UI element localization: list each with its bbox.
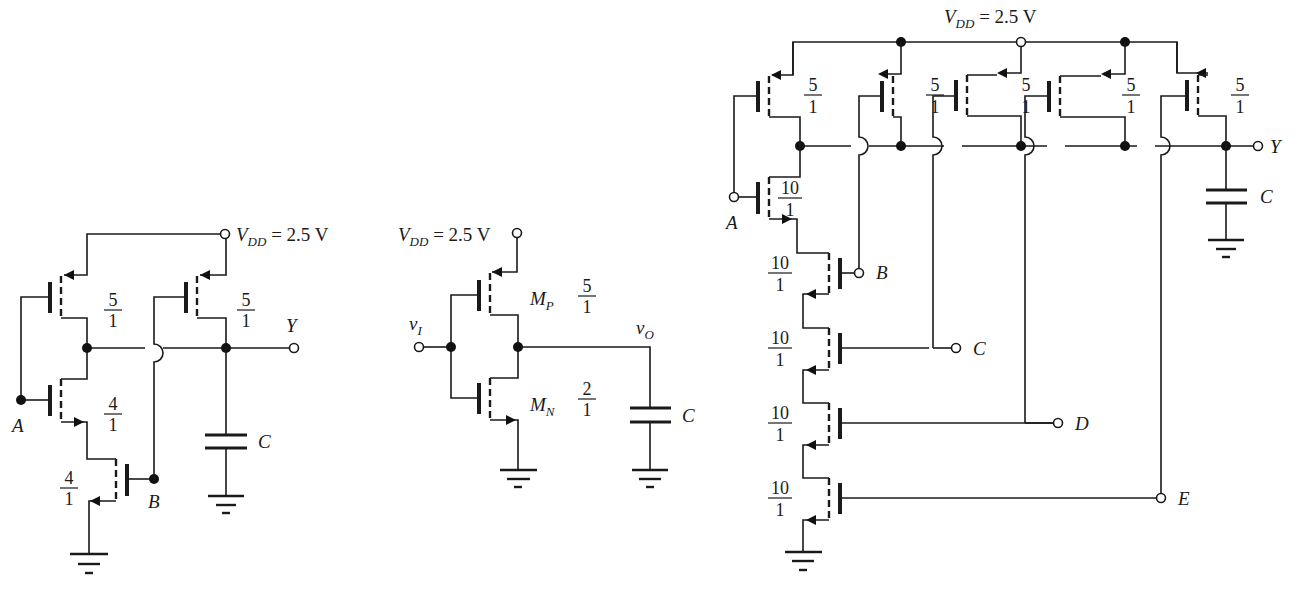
left-vdd-label: VDD = 2.5 V <box>236 224 329 249</box>
right-input-e-label: E <box>1177 488 1190 509</box>
middle-circuit: VDD = 2.5 V MP 5 1 MN 2 1 <box>398 224 695 487</box>
right-input-a-label: A <box>724 212 738 233</box>
right-vdd-rail <box>793 42 1177 75</box>
left-capacitor-icon <box>205 348 247 513</box>
svg-text:4: 4 <box>65 468 74 488</box>
right-pmos-d: 5 1 <box>1025 42 1140 423</box>
left-circuit: VDD = 2.5 V 5 1 4 1 A <box>10 224 329 573</box>
middle-vdd-label: VDD = 2.5 V <box>398 224 491 249</box>
svg-text:10: 10 <box>771 478 789 498</box>
svg-text:5: 5 <box>1236 75 1245 95</box>
svg-text:1: 1 <box>809 97 818 117</box>
svg-text:1: 1 <box>583 297 592 317</box>
svg-text:1: 1 <box>109 415 118 435</box>
right-output-y-terminal <box>1254 142 1263 151</box>
right-pmos-a: 5 1 <box>734 42 822 194</box>
left-vdd-terminal <box>221 230 230 239</box>
right-input-e-terminal <box>1157 494 1166 503</box>
svg-text:5: 5 <box>109 290 118 310</box>
svg-text:1: 1 <box>776 425 785 445</box>
right-input-d-label: D <box>1074 413 1089 434</box>
middle-pmos-mp <box>451 237 518 347</box>
left-output-y-label: Y <box>286 315 299 336</box>
right-input-b-terminal <box>855 269 864 278</box>
right-pmos-e: 5 1 <box>1161 42 1249 496</box>
svg-text:1: 1 <box>583 400 592 420</box>
right-output-y-label: Y <box>1270 136 1283 157</box>
svg-text:1: 1 <box>109 311 118 331</box>
middle-mp-label: MP <box>529 288 554 313</box>
right-circuit: VDD = 2.5 V Y 5 1 <box>724 6 1283 570</box>
left-input-a-node <box>16 395 26 405</box>
svg-text:1: 1 <box>1127 97 1136 117</box>
left-ground-icon <box>70 554 108 573</box>
svg-text:4: 4 <box>109 394 118 414</box>
svg-text:1: 1 <box>65 489 74 509</box>
right-nmos-d: 10 1 <box>768 403 1054 478</box>
middle-input-vi-terminal <box>415 343 424 352</box>
middle-ground-icon <box>500 470 537 487</box>
right-ground-icon <box>785 552 822 570</box>
svg-text:10: 10 <box>781 178 799 198</box>
right-nmos-a: 10 1 <box>738 146 829 253</box>
svg-text:5: 5 <box>242 290 251 310</box>
right-vdd-label: VDD = 2.5 V <box>944 6 1037 31</box>
right-vdd-terminal <box>1017 38 1026 47</box>
left-input-b-label: B <box>148 491 160 512</box>
right-nmos-e: 10 1 <box>768 478 1157 552</box>
left-input-a-label: A <box>10 415 24 436</box>
right-input-b-label: B <box>876 262 888 283</box>
left-pmos-a: 5 1 <box>21 270 122 400</box>
middle-mn-label: MN <box>529 394 556 419</box>
right-pmos-c: 5 1 <box>933 46 1031 348</box>
left-nmos-a: 4 1 <box>21 348 122 459</box>
schematic-canvas: VDD = 2.5 V 5 1 4 1 A <box>0 0 1299 597</box>
svg-text:1: 1 <box>776 275 785 295</box>
svg-text:10: 10 <box>771 328 789 348</box>
svg-text:1: 1 <box>786 200 795 220</box>
svg-text:10: 10 <box>771 253 789 273</box>
middle-input-vi-label: vI <box>409 313 422 338</box>
svg-text:5: 5 <box>809 75 818 95</box>
svg-text:1: 1 <box>776 350 785 370</box>
right-capacitor-label: C <box>1260 186 1273 207</box>
right-pmos-b: 5 1 <box>859 42 944 273</box>
middle-nmos-mn <box>451 347 518 470</box>
left-nmos-b: 4 1 <box>60 459 154 554</box>
svg-text:10: 10 <box>771 403 789 423</box>
right-capacitor-icon <box>1206 146 1247 257</box>
svg-text:5: 5 <box>583 276 592 296</box>
svg-text:5: 5 <box>1127 75 1136 95</box>
svg-text:1: 1 <box>1236 97 1245 117</box>
middle-vdd-terminal <box>513 229 522 238</box>
left-output-y-terminal <box>290 344 299 353</box>
left-b-gate-wire <box>154 297 186 479</box>
svg-text:5: 5 <box>931 75 940 95</box>
left-vdd-wire <box>64 234 221 275</box>
left-pmos-b: 5 1 <box>186 238 255 348</box>
middle-capacitor-label: C <box>682 405 695 426</box>
svg-text:1: 1 <box>931 97 940 117</box>
right-nmos-b: 10 1 <box>768 253 855 328</box>
right-input-a-terminal <box>730 193 739 202</box>
right-nmos-c: 10 1 <box>768 328 929 403</box>
right-input-c-label: C <box>973 338 986 359</box>
svg-text:1: 1 <box>242 311 251 331</box>
left-capacitor-label: C <box>258 431 271 452</box>
svg-text:2: 2 <box>583 379 592 399</box>
svg-text:5: 5 <box>1022 75 1031 95</box>
middle-output-vo-label: vO <box>636 317 654 342</box>
schematic-figure: VDD = 2.5 V 5 1 4 1 A <box>0 0 1299 597</box>
right-input-d-terminal <box>1054 419 1063 428</box>
svg-text:1: 1 <box>1022 97 1031 117</box>
right-input-c-terminal <box>952 344 961 353</box>
svg-text:1: 1 <box>776 500 785 520</box>
